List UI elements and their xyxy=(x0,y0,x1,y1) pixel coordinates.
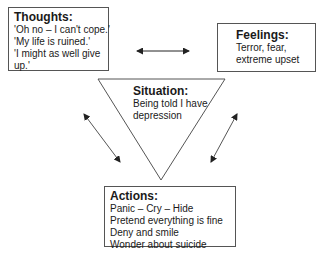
actions-line: Pretend everything is fine xyxy=(110,215,235,227)
feelings-line: extreme upset xyxy=(236,54,315,66)
feelings-actions-arrow xyxy=(211,114,237,162)
actions-line: Deny and smile xyxy=(110,227,235,239)
thoughts-actions-arrow xyxy=(84,114,120,162)
feelings-title: Feelings: xyxy=(236,29,315,42)
thoughts-line: up.' xyxy=(14,60,108,72)
feelings-line: Terror, fear, xyxy=(236,42,315,54)
thoughts-title: Thoughts: xyxy=(14,11,108,24)
situation-line: depression xyxy=(133,110,208,122)
situation-line: Being told I have xyxy=(133,98,208,110)
actions-box: Actions: Panic – Cry – Hide Pretend ever… xyxy=(104,186,236,247)
feelings-box: Feelings: Terror, fear, extreme upset xyxy=(217,23,316,72)
thoughts-line: 'I might as well give xyxy=(14,48,108,60)
actions-title: Actions: xyxy=(110,190,235,203)
actions-line: Wonder about suicide xyxy=(110,239,235,251)
thoughts-line: 'My life is ruined.' xyxy=(14,36,108,48)
actions-line: Panic – Cry – Hide xyxy=(110,203,235,215)
thoughts-box: Thoughts: 'Oh no – I can't cope.' 'My li… xyxy=(8,7,109,71)
situation-label: Situation: Being told I have depression xyxy=(133,85,208,122)
thoughts-line: 'Oh no – I can't cope.' xyxy=(14,24,108,36)
situation-title: Situation: xyxy=(133,85,208,98)
